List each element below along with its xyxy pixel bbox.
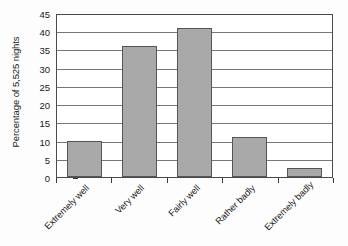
bar[interactable] <box>232 137 267 177</box>
y-axis-tick-label: 25 <box>22 82 50 92</box>
bar[interactable] <box>122 46 157 177</box>
y-axis-title: Percentage of 5,525 nights <box>9 2 23 182</box>
x-axis-category-label: Rather badly <box>207 183 257 233</box>
bar-slot <box>57 15 112 177</box>
y-axis-tick-label: 15 <box>22 119 50 129</box>
x-axis-category-label: Extremely well <box>41 183 91 233</box>
x-axis-category-labels: Extremely wellVery wellFairly wellRather… <box>56 183 333 245</box>
bar[interactable] <box>177 28 212 177</box>
y-axis-tick-label: 20 <box>22 101 50 111</box>
bar-slot <box>112 15 167 177</box>
bar[interactable] <box>287 168 322 177</box>
y-axis-tick-label: 5 <box>22 155 50 165</box>
y-axis-tick-labels: 051015202530354045 <box>22 14 50 178</box>
x-axis-category-label: Extremely badly <box>263 183 313 233</box>
y-axis-tick-label: 30 <box>22 64 50 74</box>
bar[interactable] <box>67 141 102 177</box>
x-axis-category-label: Very well <box>97 183 147 233</box>
plot-area <box>56 14 333 178</box>
bars-group <box>57 15 332 177</box>
bar-slot <box>167 15 222 177</box>
bar-slot <box>277 15 332 177</box>
y-axis-tick-label: 0 <box>22 174 50 184</box>
x-axis-category-label: Fairly well <box>152 183 202 233</box>
bar-chart: Percentage of 5,525 nights 0510152025303… <box>0 0 348 246</box>
bar-slot <box>222 15 277 177</box>
y-axis-tick-label: 35 <box>22 46 50 56</box>
y-axis-tick-label: 40 <box>22 28 50 38</box>
x-axis-tick-mark <box>333 178 334 183</box>
y-axis-tick-label: 45 <box>22 10 50 20</box>
y-axis-tick-label: 10 <box>22 137 50 147</box>
